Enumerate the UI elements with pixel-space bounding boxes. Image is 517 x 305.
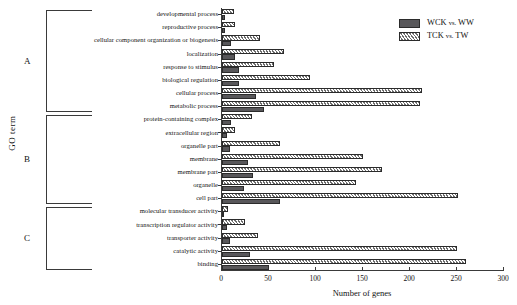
y-tick (218, 93, 221, 94)
x-tick-label: 250 (450, 274, 461, 283)
bar-tck (222, 88, 422, 93)
y-tick (218, 251, 221, 252)
category-label: organelle (50, 182, 218, 189)
bar-wck (222, 212, 224, 217)
x-tick-label: 100 (309, 274, 320, 283)
legend-swatch-tck-icon (399, 32, 420, 42)
bar-tck (222, 259, 466, 264)
bar-wck (222, 225, 227, 230)
bar-tck (222, 101, 420, 106)
bar-wck (222, 94, 256, 99)
bar-tck (222, 22, 235, 27)
x-tick-label: 300 (497, 274, 508, 283)
y-axis-title: GO term (7, 103, 17, 163)
go-term-bar-chart: GO term ABC developmental processreprodu… (0, 0, 517, 305)
bar-wck (222, 199, 280, 204)
x-tick (456, 267, 457, 271)
bar-tck (222, 141, 280, 146)
y-axis-line (221, 8, 222, 271)
bar-tck (222, 154, 363, 159)
category-label: developmental process (50, 11, 218, 18)
category-label: membrane (50, 156, 218, 163)
category-label: molecular transducer activity (50, 208, 218, 215)
bar-tck (222, 233, 258, 238)
legend-swatch-wck-icon (399, 19, 420, 29)
plot-area: 050100150200250300 (221, 8, 503, 271)
x-tick-label: 50 (264, 274, 272, 283)
y-tick (218, 27, 221, 28)
y-tick (218, 264, 221, 265)
group-label: A (24, 56, 31, 66)
x-tick (362, 267, 363, 271)
bar-wck (222, 238, 230, 243)
category-label-list: developmental processreproductive proces… (46, 0, 218, 305)
bar-tck (222, 246, 457, 251)
x-tick (315, 267, 316, 271)
x-axis-title: Number of genes (221, 288, 503, 298)
legend: WCK vs. WW TCK vs. TW (399, 18, 474, 44)
bar-tck (222, 193, 458, 198)
x-tick-label: 200 (403, 274, 414, 283)
y-tick (218, 198, 221, 199)
y-tick (218, 67, 221, 68)
bar-tck (222, 219, 245, 224)
y-tick (218, 40, 221, 41)
category-label: cell part (50, 195, 218, 202)
bar-tck (222, 9, 234, 14)
y-tick (218, 211, 221, 212)
category-label: localization (50, 51, 218, 58)
x-tick-label: 150 (356, 274, 367, 283)
category-label: biological regulation (50, 77, 218, 84)
category-label: reproductive process (50, 24, 218, 31)
category-label: protein-containing complex (50, 116, 218, 123)
bar-wck (222, 15, 225, 20)
bar-wck (222, 41, 231, 46)
category-label: transcription regulator activity (50, 222, 218, 229)
x-tick (409, 267, 410, 271)
category-label: organelle part (50, 143, 218, 150)
group-label: C (24, 233, 30, 243)
bar-wck (222, 28, 225, 33)
y-tick (218, 14, 221, 15)
category-label: catalytic activity (50, 248, 218, 255)
category-label: extracellular region (50, 130, 218, 137)
bar-wck (222, 146, 230, 151)
bar-wck (222, 120, 231, 125)
category-label: membrane part (50, 169, 218, 176)
bar-tck (222, 114, 252, 119)
category-label: metabolic process (50, 103, 218, 110)
x-tick-label: 0 (219, 274, 223, 283)
y-tick (218, 119, 221, 120)
bar-tck (222, 127, 235, 132)
bar-wck (222, 54, 235, 59)
category-label: response to stimulus (50, 64, 218, 71)
legend-label-wck: WCK vs. WW (427, 19, 474, 27)
bar-wck (222, 252, 250, 257)
y-tick (218, 159, 221, 160)
group-label: B (24, 154, 30, 164)
x-tick (503, 267, 504, 271)
y-tick (218, 54, 221, 55)
y-tick (218, 146, 221, 147)
y-tick (218, 172, 221, 173)
bar-tck (222, 167, 382, 172)
y-tick (218, 80, 221, 81)
legend-label-tck: TCK vs. TW (427, 32, 468, 40)
bar-tck (222, 75, 310, 80)
bar-wck (222, 81, 239, 86)
bar-wck (222, 186, 244, 191)
legend-item-tck: TCK vs. TW (399, 31, 474, 42)
bar-wck (222, 107, 264, 112)
category-label: cellular component organization or bioge… (50, 37, 218, 44)
bar-wck (222, 67, 239, 72)
bar-tck (222, 35, 260, 40)
bar-wck (222, 160, 248, 165)
legend-item-wck: WCK vs. WW (399, 18, 474, 29)
bar-tck (222, 206, 228, 211)
category-label: binding (50, 261, 218, 268)
bar-wck (222, 133, 227, 138)
category-label: transporter activity (50, 235, 218, 242)
bar-wck (222, 173, 253, 178)
y-tick (218, 132, 221, 133)
y-tick (218, 185, 221, 186)
